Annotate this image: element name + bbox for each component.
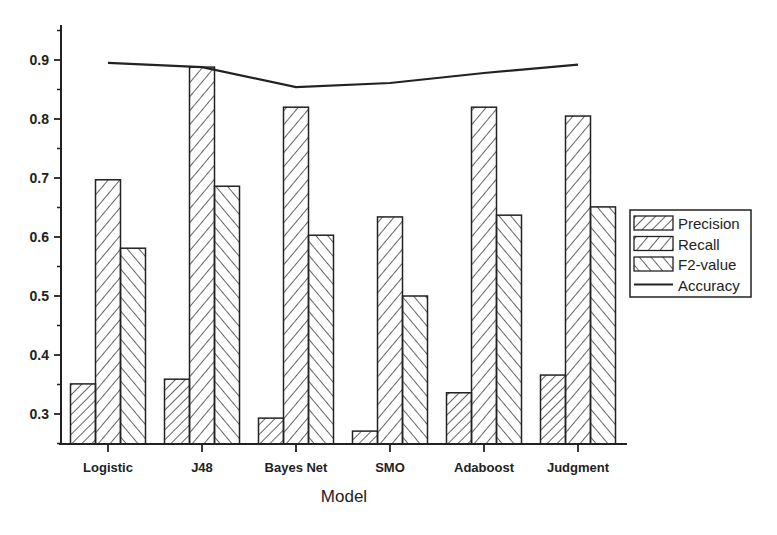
bar-recall bbox=[284, 107, 309, 444]
bar-line-chart: 0.30.40.50.60.70.80.9 LogisticJ48Bayes N… bbox=[0, 0, 777, 535]
y-tick-label: 0.7 bbox=[30, 170, 50, 186]
bar-f2-value bbox=[403, 296, 428, 444]
y-tick-label: 0.4 bbox=[30, 347, 50, 363]
bar-f2-value bbox=[309, 235, 334, 444]
legend-swatch bbox=[634, 257, 673, 271]
y-axis: 0.30.40.50.60.70.80.9 bbox=[30, 25, 61, 444]
legend-label: F2-value bbox=[678, 256, 736, 273]
plot-area bbox=[71, 63, 616, 444]
bar-f2-value bbox=[591, 207, 616, 444]
bar-f2-value bbox=[121, 248, 146, 444]
x-axis-title: Model bbox=[321, 487, 367, 506]
bar-f2-value bbox=[215, 186, 240, 444]
bar-precision bbox=[353, 431, 378, 444]
y-tick-label: 0.9 bbox=[30, 52, 50, 68]
legend-swatch bbox=[634, 237, 673, 251]
bar-group bbox=[541, 116, 616, 444]
x-tick-label: Logistic bbox=[83, 460, 133, 475]
x-tick-label: Bayes Net bbox=[265, 460, 329, 475]
legend-swatch bbox=[634, 216, 673, 230]
bar-precision bbox=[541, 375, 566, 444]
bar-group bbox=[71, 180, 146, 444]
x-tick-label: Judgment bbox=[547, 460, 610, 475]
accuracy-line bbox=[108, 63, 578, 87]
bar-f2-value bbox=[497, 215, 522, 444]
y-tick-label: 0.3 bbox=[30, 406, 50, 422]
y-tick-label: 0.5 bbox=[30, 288, 50, 304]
legend-label: Precision bbox=[678, 215, 740, 232]
bar-precision bbox=[259, 418, 284, 444]
legend-label: Accuracy bbox=[678, 277, 740, 294]
x-tick-label: Adaboost bbox=[454, 460, 515, 475]
bar-group bbox=[259, 107, 334, 444]
bar-recall bbox=[96, 180, 121, 444]
legend: PrecisionRecallF2-valueAccuracy bbox=[630, 210, 751, 297]
bar-precision bbox=[165, 379, 190, 444]
x-tick-label: SMO bbox=[375, 460, 405, 475]
bar-precision bbox=[447, 393, 472, 444]
legend-label: Recall bbox=[678, 236, 720, 253]
legend-item-precision: Precision bbox=[634, 215, 740, 232]
legend-item-f2-value: F2-value bbox=[634, 256, 736, 273]
x-tick-label: J48 bbox=[191, 460, 213, 475]
bar-group bbox=[165, 67, 240, 444]
bar-precision bbox=[71, 384, 96, 444]
bar-recall bbox=[378, 217, 403, 444]
y-tick-label: 0.6 bbox=[30, 229, 50, 245]
bar-group bbox=[353, 217, 428, 444]
bar-group bbox=[447, 107, 522, 444]
bar-recall bbox=[566, 116, 591, 444]
y-tick-label: 0.8 bbox=[30, 111, 50, 127]
bar-recall bbox=[472, 107, 497, 444]
bar-recall bbox=[190, 67, 215, 444]
x-axis: LogisticJ48Bayes NetSMOAdaboostJudgment bbox=[59, 444, 627, 475]
